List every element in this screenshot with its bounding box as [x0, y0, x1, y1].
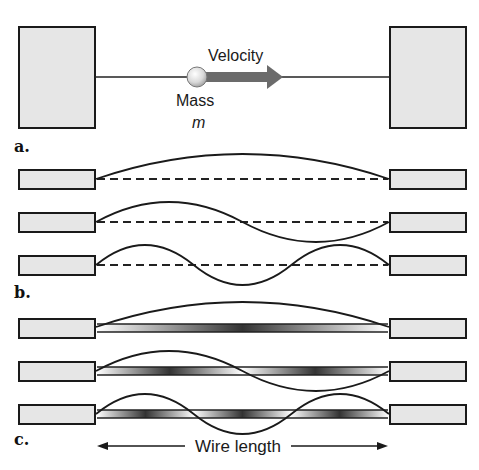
right-support-block — [390, 213, 466, 232]
left-support-block — [19, 405, 95, 424]
arrow-right-icon — [377, 442, 388, 450]
mode-row-3 — [19, 394, 466, 434]
mass-label: Mass — [176, 92, 214, 109]
velocity-label: Velocity — [208, 47, 263, 64]
shaded-tube — [97, 410, 388, 418]
mode-row-1 — [19, 154, 466, 189]
velocity-arrow-icon — [205, 65, 283, 89]
mode-row-2 — [19, 202, 466, 242]
panel-b-label: b. — [14, 283, 31, 302]
panel-c-label: c. — [14, 430, 29, 449]
right-support-block — [390, 170, 466, 189]
left-support-block — [19, 27, 95, 128]
panel-b: b. — [14, 154, 466, 302]
right-support-block — [390, 256, 466, 275]
panel-a-label: a. — [14, 137, 30, 156]
standing-wave-curve — [96, 154, 389, 179]
left-support-block — [19, 170, 95, 189]
right-support-block — [390, 362, 466, 381]
standing-wave-curve — [96, 302, 389, 327]
right-support-block — [390, 319, 466, 338]
mass-symbol: m — [192, 114, 205, 131]
right-support-block — [390, 405, 466, 424]
left-support-block — [19, 256, 95, 275]
standing-waves-diagram: Velocity Mass m a. b. — [0, 0, 479, 470]
mode-row-1 — [19, 302, 466, 338]
mass-ball — [187, 67, 207, 87]
arrow-left-icon — [97, 442, 108, 450]
right-support-block — [390, 27, 466, 128]
mode-row-3 — [19, 245, 466, 285]
panel-a: Velocity Mass m a. — [14, 27, 466, 156]
panel-c: c. Wire length — [14, 302, 466, 456]
left-support-block — [19, 213, 95, 232]
shaded-tube — [97, 324, 388, 332]
wire-length-label: Wire length — [195, 437, 281, 456]
left-support-block — [19, 362, 95, 381]
wire-length-dimension: Wire length — [97, 437, 388, 456]
mode-row-2 — [19, 351, 466, 391]
left-support-block — [19, 319, 95, 338]
